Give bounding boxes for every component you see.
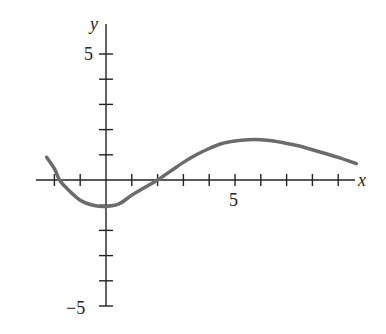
plot: x y 5 5 −5 — [0, 0, 386, 334]
y-tick-label-neg5: −5 — [66, 298, 85, 318]
x-tick-label-5: 5 — [229, 190, 238, 210]
plot-svg: x y 5 5 −5 — [0, 0, 386, 334]
x-axis-label: x — [357, 170, 366, 190]
function-curve — [47, 140, 357, 207]
y-axis-label: y — [88, 14, 98, 34]
y-tick-label-5: 5 — [84, 44, 93, 64]
axes — [36, 24, 355, 306]
